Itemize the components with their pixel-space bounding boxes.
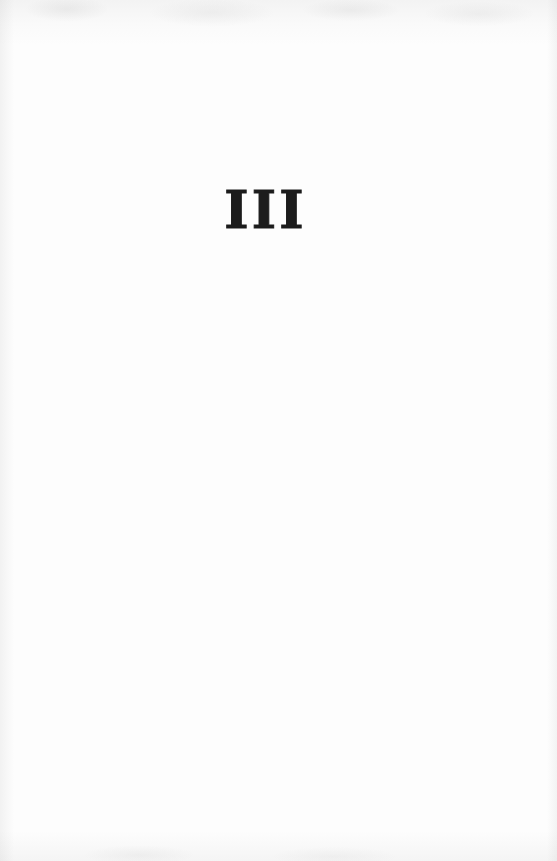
- scan-noise-top-edge: [0, 0, 557, 46]
- book-page: III: [0, 0, 557, 861]
- section-numeral: III: [0, 180, 544, 240]
- scan-noise-right-edge: [547, 0, 557, 861]
- scan-noise-bottom-edge: [0, 831, 557, 861]
- scan-noise-left-edge: [0, 0, 14, 861]
